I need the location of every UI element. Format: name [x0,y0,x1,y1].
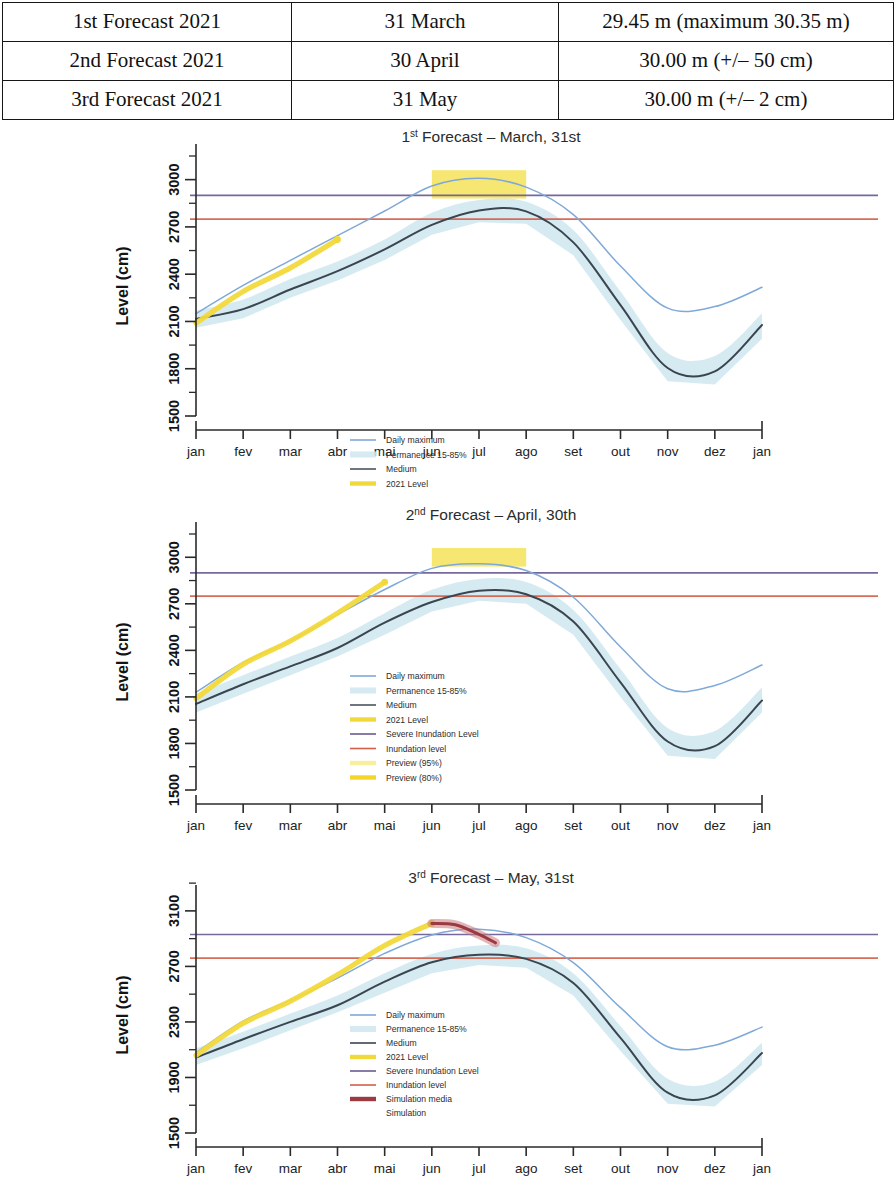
x-tick-label: ago [515,1161,538,1176]
x-tick-label: mai [374,818,396,833]
y-tick-label: 1500 [166,774,182,806]
chart-2-canvas: 2nd Forecast – April, 30th15001800210024… [0,490,880,855]
legend-label: Simulation [386,1108,426,1118]
y-tick-label: 3100 [166,895,182,927]
x-tick-label: jan [752,444,771,459]
legend-label: Permanence 15-85% [386,1024,467,1034]
x-tick-label: out [611,818,630,833]
legend-label: Preview (95%) [386,758,442,768]
legend-label: Medium [386,464,417,474]
x-tick-label: fev [234,444,252,459]
table-row: 1st Forecast 2021 31 March 29.45 m (maxi… [3,3,894,42]
legend-label: Daily maximum [386,435,445,445]
y-tick-label: 2700 [166,588,182,620]
chart-forecast-3: 3rd Forecast – May, 31st1500190023002700… [0,855,880,1188]
legend-label: Simulation media [386,1094,452,1104]
x-tick-label: nov [657,444,679,459]
y-tick-label: 3000 [166,164,182,196]
x-tick-label: out [611,444,630,459]
x-tick-label: jan [752,818,771,833]
forecast-value: 30.00 m (+/– 50 cm) [559,42,894,81]
chart-forecast-2: 2nd Forecast – April, 30th15001800210024… [0,490,880,855]
chart-legend: Daily maximumPermanence 15-85%Medium2021… [350,671,479,783]
y-tick-label: 1800 [166,727,182,759]
forecast-date: 31 March [292,3,559,42]
legend-label: Daily maximum [386,671,445,681]
level-2021-line [196,923,432,1055]
x-tick-label: abr [328,818,348,833]
y-axis-label: Level (cm) [114,622,131,701]
y-tick-label: 2400 [166,258,182,290]
chart-forecast-1: 1st Forecast – March, 31st15001800210024… [0,120,880,490]
forecast-label: 3rd Forecast 2021 [3,81,292,120]
legend-swatch-band [350,688,376,694]
table-row: 2nd Forecast 2021 30 April 30.00 m (+/– … [3,42,894,81]
chart-1-canvas: 1st Forecast – March, 31st15001800210024… [0,120,880,490]
x-tick-label: fev [234,1161,252,1176]
x-tick-label: jan [752,1161,771,1176]
x-tick-label: jul [471,818,486,833]
legend-label: Severe Inundation Level [386,1066,479,1076]
x-tick-label: jan [186,444,205,459]
level-2021-endpoint [381,579,388,586]
chart-title: 3rd Forecast – May, 31st [408,869,574,886]
forecast-charts-container: 1st Forecast – March, 31st15001800210024… [0,120,880,1188]
x-tick-label: mar [279,1161,303,1176]
chart-title: 1st Forecast – March, 31st [401,128,581,145]
x-tick-label: fev [234,818,252,833]
y-tick-label: 2300 [166,1006,182,1038]
y-axis-label: Level (cm) [114,246,131,325]
x-tick-label: set [564,1161,582,1176]
legend-label: Permanence 15-85% [386,450,467,460]
x-tick-label: nov [657,818,679,833]
legend-label: Medium [386,700,417,710]
forecast-label: 2nd Forecast 2021 [3,42,292,81]
legend-label: 2021 Level [386,715,428,725]
forecast-value: 29.45 m (maximum 30.35 m) [559,3,894,42]
forecast-table-body: 1st Forecast 2021 31 March 29.45 m (maxi… [3,3,894,120]
y-tick-label: 2700 [166,950,182,982]
chart-3-canvas: 3rd Forecast – May, 31st1500190023002700… [0,855,880,1188]
legend-label: Daily maximum [386,1010,445,1020]
x-tick-label: abr [328,1161,348,1176]
legend-label: Preview (80%) [386,773,442,783]
level-2021-endpoint [334,236,341,243]
permanence-band [196,578,762,759]
legend-label: Severe Inundation Level [386,729,479,739]
x-tick-label: abr [328,444,348,459]
legend-swatch-band [350,1026,376,1032]
x-tick-label: dez [704,444,726,459]
preview-band [432,170,526,198]
legend-label: Permanence 15-85% [386,686,467,696]
x-tick-label: ago [515,818,538,833]
y-tick-label: 1500 [166,400,182,432]
y-tick-label: 1500 [166,1117,182,1149]
x-tick-label: mar [279,818,303,833]
x-tick-label: jul [471,1161,486,1176]
x-tick-label: jul [471,444,486,459]
x-tick-label: nov [657,1161,679,1176]
x-tick-label: dez [704,1161,726,1176]
legend-label: Medium [386,1038,417,1048]
y-tick-label: 2100 [166,681,182,713]
table-row: 3rd Forecast 2021 31 May 30.00 m (+/– 2 … [3,81,894,120]
chart-legend: Daily maximumPermanence 15-85%Medium2021… [350,435,479,490]
legend-label: Inundation level [386,1080,446,1090]
x-tick-label: mar [279,444,303,459]
y-tick-label: 2400 [166,634,182,666]
x-tick-label: jan [186,818,205,833]
legend-label: Inundation level [386,744,446,754]
chart-title: 2nd Forecast – April, 30th [406,506,577,523]
x-tick-label: jun [422,1161,441,1176]
y-tick-label: 2700 [166,211,182,243]
y-tick-label: 1800 [166,353,182,385]
x-tick-label: out [611,1161,630,1176]
medium-line [196,590,762,751]
x-tick-label: jan [186,1161,205,1176]
forecast-date: 30 April [292,42,559,81]
forecast-value: 30.00 m (+/– 2 cm) [559,81,894,120]
permanence-band [196,198,762,384]
x-tick-label: set [564,818,582,833]
forecast-date: 31 May [292,81,559,120]
legend-label: 2021 Level [386,479,428,489]
